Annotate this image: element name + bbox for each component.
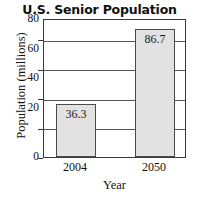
y-tick-label-80: 80 [28, 13, 40, 25]
y-tick-mark-0 [38, 158, 43, 159]
plot-area: 36.3 86.7 [43, 19, 186, 158]
x-tick-label-2004: 2004 [43, 160, 107, 175]
bar-2004: 36.3 [56, 104, 96, 158]
x-axis-label: Year [43, 178, 186, 193]
bar-value-2050: 86.7 [136, 32, 174, 47]
bar-value-2004: 36.3 [57, 107, 95, 122]
y-tick-label-0: 0 [33, 151, 39, 163]
y-axis-label: Population (millions) [14, 13, 29, 158]
y-tick-label-20: 20 [28, 102, 40, 114]
y-tick-label-40: 40 [28, 72, 40, 84]
y-tick-label-60: 60 [28, 43, 40, 55]
bar-2050: 86.7 [135, 29, 175, 157]
chart-screenshot: U.S. Senior Population 80 60 40 20 0 Pop… [0, 0, 199, 206]
x-tick-label-2050: 2050 [122, 160, 186, 175]
